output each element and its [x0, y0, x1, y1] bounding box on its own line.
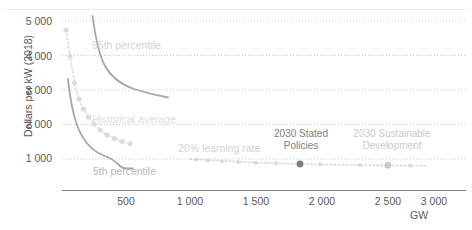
chart-container: Dollars per kW (2018) 5 000 4 000 3 000 …	[0, 0, 472, 230]
x-tick-label-2000: 2 000	[292, 196, 352, 207]
data-point-marker	[81, 106, 86, 111]
scenario-marker-2030-stated-policies[interactable]	[297, 161, 304, 168]
data-point-marker	[104, 132, 109, 137]
series-label-95th-percentile: 95th percentile	[92, 39, 161, 51]
x-tick-label-1000: 1 000	[160, 196, 220, 207]
scenario-label-line1: 2030 Sustainable	[340, 128, 444, 140]
data-point-marker	[112, 136, 117, 141]
scenario-label-line1: 2030 Stated	[258, 128, 344, 140]
data-point-marker	[67, 53, 72, 58]
series-label-5th-percentile: 5th percentile	[93, 165, 156, 177]
data-point-marker	[220, 159, 224, 163]
data-point-marker	[274, 161, 278, 165]
x-axis-unit-label: GW	[410, 209, 460, 221]
data-point-marker	[236, 160, 240, 164]
scenario-label-2030-stated-policies: 2030 Stated Policies	[258, 128, 344, 152]
data-point-marker	[97, 127, 102, 132]
series-label-20pct-learning-rate: 20% learning rate	[178, 142, 260, 154]
scenario-label-2030-sustainable-development: 2030 Sustainable Development	[340, 128, 444, 152]
data-point-marker	[254, 161, 258, 165]
data-point-marker	[358, 163, 362, 167]
series-label-historical-average: Historical average	[92, 113, 176, 125]
series-95th-percentile	[93, 16, 169, 98]
scenario-marker-2030-sustainable-development[interactable]	[385, 162, 392, 169]
data-point-marker	[318, 162, 322, 166]
scenario-label-line2: Policies	[258, 140, 344, 152]
scenario-label-line2: Development	[340, 140, 444, 152]
data-point-marker	[127, 141, 132, 146]
data-point-marker	[72, 80, 77, 85]
x-tick-label-3000: 3 000	[404, 196, 464, 207]
x-tick-label-1500: 1 500	[226, 196, 286, 207]
data-point-marker	[63, 27, 68, 32]
data-point-marker	[194, 158, 198, 162]
data-point-marker	[76, 96, 81, 101]
data-point-marker	[119, 139, 124, 144]
x-tick-label-500: 500	[96, 196, 156, 207]
data-point-marker	[206, 158, 210, 162]
data-point-marker	[86, 114, 91, 119]
data-point-marker	[408, 164, 412, 168]
